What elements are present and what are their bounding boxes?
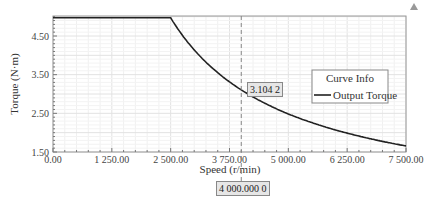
legend-entry-output-torque: Output Torque	[333, 89, 397, 101]
y-tick-label: 4.50	[32, 31, 50, 42]
x-tick-label: 2 500.00	[153, 154, 188, 165]
legend: Curve Info Output Torque	[312, 70, 397, 103]
triangle-up-icon[interactable]	[408, 2, 420, 12]
torque-speed-chart: 0.001 250.002 500.003 750.005 000.006 25…	[0, 0, 434, 204]
y-tick-label: 3.50	[32, 69, 50, 80]
cursor-x-label[interactable]: 4 000.000 0	[216, 181, 270, 196]
y-tick-label: 2.50	[32, 108, 50, 119]
cursor-value-label: 3.104 2	[247, 82, 283, 97]
x-tick-label: 1 250.00	[94, 154, 129, 165]
x-tick-label: 7 500.00	[389, 154, 424, 165]
y-axis-title: Torque (N·m)	[8, 53, 21, 115]
y-tick-labels: 1.502.503.504.50	[32, 31, 50, 158]
x-axis-title: Speed (r/min)	[200, 163, 261, 176]
x-tick-label: 6 250.00	[330, 154, 365, 165]
legend-title: Curve Info	[326, 72, 374, 84]
x-tick-label: 5 000.00	[271, 154, 306, 165]
y-tick-label: 1.50	[32, 147, 50, 158]
